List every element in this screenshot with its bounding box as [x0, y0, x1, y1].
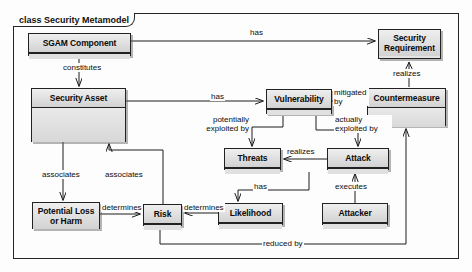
class-box-sgam-component[interactable]: SGAM Component: [28, 33, 131, 56]
class-box-potential-loss-or-harm[interactable]: Potential Loss or Harm: [32, 202, 100, 229]
class-name-sgam-component: SGAM Component: [29, 34, 130, 53]
class-box-attack[interactable]: Attack: [327, 148, 389, 170]
class-name-vulnerability: Vulnerability: [267, 90, 331, 109]
edge-label-has-requirement: has: [249, 28, 264, 37]
class-name-line-2: Requirement: [384, 43, 435, 53]
edge-label-associates-loss: associates: [41, 170, 81, 179]
edge-label-realizes-threats: realizes: [286, 147, 316, 156]
class-box-security-requirement[interactable]: Security Requirement: [378, 29, 441, 59]
class-compartment: [267, 109, 331, 115]
class-compartment: [328, 168, 388, 174]
edge-label-mitigated-by: mitigated by: [333, 88, 369, 106]
edge-label-line-2: by: [334, 97, 342, 106]
edge-label-determines-risk-loss: determines: [101, 203, 143, 212]
edge-label-line-1: mitigated: [334, 88, 366, 97]
class-name-countermeasure: Countermeasure: [368, 89, 445, 108]
edge-label-associates-risk: associates: [104, 170, 144, 179]
edge-label-potentially-exploited-by: potentially exploited by: [192, 115, 250, 133]
class-compartment: [32, 108, 125, 142]
class-name-line-2: or Harm: [50, 216, 82, 226]
edge-label-actually-exploited-by: actually exploited by: [334, 115, 392, 133]
class-box-vulnerability[interactable]: Vulnerability: [266, 89, 332, 114]
class-name-potential-loss-or-harm: Potential Loss or Harm: [33, 203, 99, 229]
class-box-attacker[interactable]: Attacker: [322, 203, 388, 225]
class-box-security-asset[interactable]: Security Asset: [31, 88, 126, 142]
class-compartment: [219, 223, 282, 229]
class-name-risk: Risk: [144, 205, 181, 224]
class-name-security-requirement: Security Requirement: [379, 30, 440, 56]
edge-label-has-vulnerability: has: [210, 92, 225, 101]
class-name-likelihood: Likelihood: [219, 204, 282, 223]
class-compartment: [144, 224, 181, 230]
class-box-risk[interactable]: Risk: [143, 204, 182, 226]
edge-label-line-2: exploited by: [335, 124, 378, 133]
edge-label-line-2: exploited by: [206, 124, 249, 133]
class-compartment: [323, 223, 387, 229]
class-name-attack: Attack: [328, 149, 388, 168]
edge-label-determines-risk-likelihood: determines: [183, 203, 225, 212]
class-compartment: [225, 168, 280, 174]
class-name-threats: Threats: [225, 149, 280, 168]
edge-label-has-likelihood: has: [253, 182, 268, 191]
diagram-canvas: class Security Metamodel: [0, 0, 472, 272]
edge-label-constitutes: constitutes: [62, 63, 102, 72]
edge-label-realizes-requirement: realizes: [392, 69, 422, 78]
edge-label-reduced-by: reduced by: [262, 239, 304, 248]
class-name-attacker: Attacker: [323, 204, 387, 223]
edge-label-executes: executes: [334, 182, 368, 191]
class-box-threats[interactable]: Threats: [224, 148, 281, 170]
edge-label-line-1: actually: [335, 115, 362, 124]
class-name-line-1: Security: [393, 33, 426, 43]
class-compartment: [29, 53, 130, 59]
edge-label-line-1: potentially: [213, 115, 249, 124]
class-box-likelihood[interactable]: Likelihood: [218, 203, 283, 225]
diagram-frame-label: class Security Metamodel: [13, 13, 135, 27]
class-name-line-1: Potential Loss: [38, 206, 95, 216]
class-name-security-asset: Security Asset: [32, 89, 125, 108]
